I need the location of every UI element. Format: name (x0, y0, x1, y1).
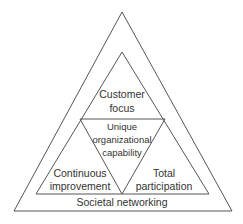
right-section-label-2: participation (136, 180, 193, 192)
center-section-label-3: capability (102, 147, 142, 158)
outer-label: Societal networking (76, 196, 167, 208)
top-section-label-2: focus (109, 102, 134, 114)
left-section-label-1: Continuous (53, 167, 106, 179)
center-section-label-2: organizational (92, 134, 151, 145)
right-section-label-1: Total (153, 167, 175, 179)
triangle-diagram: Customer focus Unique organizational cap… (0, 0, 243, 224)
left-section-label-2: improvement (50, 180, 111, 192)
center-section-label-1: Unique (107, 121, 137, 132)
top-section-label-1: Customer (99, 88, 145, 100)
